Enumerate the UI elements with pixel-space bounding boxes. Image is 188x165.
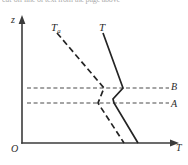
temperature-height-diagram	[0, 0, 188, 165]
level-label-a: A	[171, 99, 177, 109]
origin-label: O	[11, 144, 18, 154]
curve-ta-label-subscript: a	[57, 27, 60, 34]
curve-t-label: T	[99, 22, 105, 33]
temperature-axis-label: T	[176, 143, 182, 153]
height-axis-label: z	[11, 15, 15, 25]
height-axis-arrowhead	[19, 15, 26, 24]
curve-ta-label: Ta	[51, 22, 61, 33]
level-label-b: B	[171, 82, 177, 92]
figure-screenshot: cut-off line of text from the page above…	[0, 0, 188, 165]
